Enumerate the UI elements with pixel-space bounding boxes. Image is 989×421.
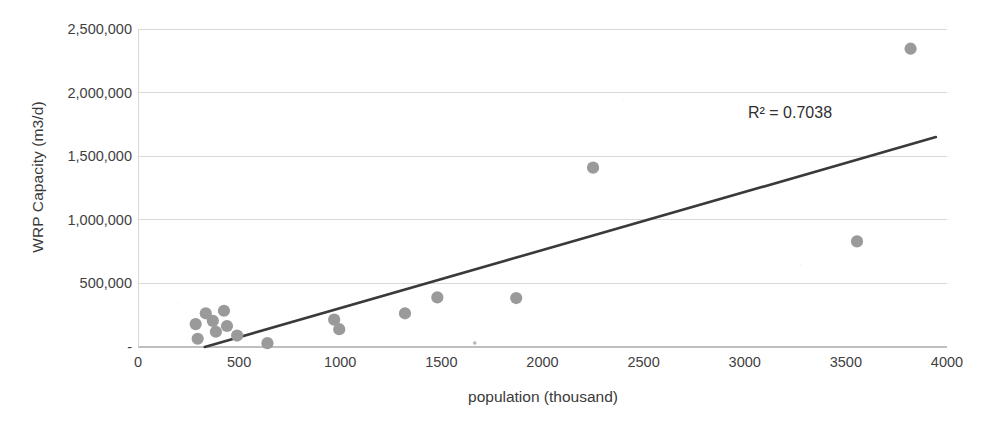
data-point [399,307,411,319]
gridlines [138,29,947,283]
y-axis-tick-label: 2,000,000 [26,85,132,101]
data-point [218,305,230,317]
y-axis-tick-label: 1,500,000 [26,148,132,164]
x-axis-tick-label: 0 [134,354,142,370]
data-point [207,315,219,327]
data-point [261,337,273,349]
y-axis-tick-label: - [26,339,132,355]
scatter-chart: WRP Capacity (m3/d) -500,0001,000,0001,5… [0,0,989,421]
y-axis-tick-label: 500,000 [26,275,132,291]
y-axis-tick-label: 2,500,000 [26,21,132,37]
x-axis-tick-label: 1000 [324,354,356,370]
x-axis-title: population (thousand) [138,388,948,406]
y-axis-tick-label: 1,000,000 [26,212,132,228]
data-point [190,318,202,330]
trendline [205,137,936,347]
x-axis-tick-label: 2500 [627,354,659,370]
data-point [904,43,916,55]
y-axis-tick-labels: -500,0001,000,0001,500,0002,000,0002,500… [22,0,132,421]
data-point [473,341,477,345]
data-point [221,320,233,332]
x-axis-tick-label: 3500 [830,354,862,370]
plot-canvas [138,29,947,347]
data-point [851,235,863,247]
r-squared-annotation: R² = 0.7038 [748,104,832,122]
data-point [333,323,345,335]
data-point [192,333,204,345]
data-point [210,326,222,338]
x-axis-tick-label: 2000 [526,354,558,370]
data-point [510,292,522,304]
x-axis-tick-label: 4000 [931,354,963,370]
data-points [190,43,917,350]
x-axis-tick-label: 1500 [425,354,457,370]
plot-area [138,29,947,347]
data-point [231,329,243,341]
x-axis-tick-label: 3000 [729,354,761,370]
axis-lines [138,29,947,347]
data-point [431,291,443,303]
x-axis-tick-label: 500 [227,354,251,370]
trendline-segment [205,137,936,347]
data-point [587,162,599,174]
